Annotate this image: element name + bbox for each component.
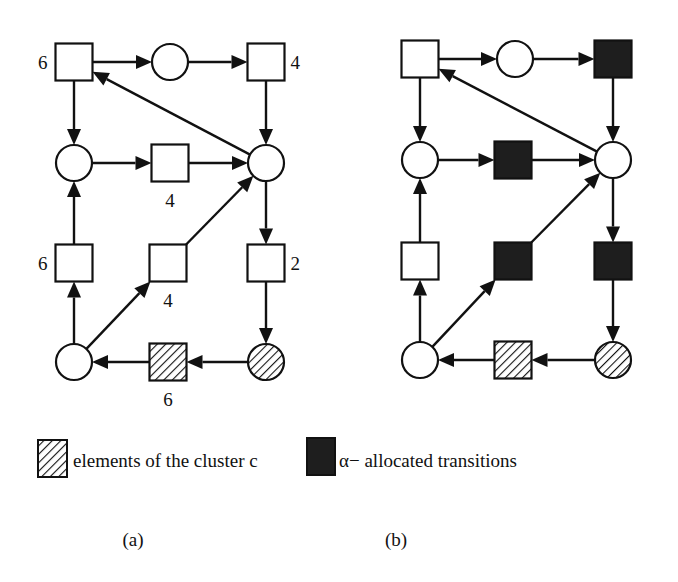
- transition-weight-label: 6: [38, 52, 48, 73]
- dark-transition-square: [595, 41, 632, 78]
- plain-transition-square: [248, 44, 285, 81]
- legend-cluster: elements of the cluster c: [38, 440, 258, 477]
- plain-transition-square: [56, 44, 93, 81]
- legend-cluster-label: elements of the cluster c: [73, 450, 258, 471]
- transition-weight-label: 4: [163, 290, 173, 311]
- arc-p_right-t_topleft: [93, 72, 251, 155]
- arrowhead-icon: [413, 280, 427, 296]
- dark-transition-square: [495, 142, 532, 179]
- arrowhead-icon: [606, 126, 620, 142]
- arrowhead-icon: [136, 55, 152, 69]
- arc-t_row3mid-p_right: [531, 173, 600, 243]
- plain-transition-square: [248, 245, 285, 282]
- hatched-place-circle: [248, 344, 284, 380]
- arc-t_mid-p_right: [532, 153, 596, 167]
- arrowhead-icon: [579, 153, 595, 167]
- arc-p_bottomleft-t_row3left: [67, 282, 81, 345]
- place-circle: [595, 142, 631, 178]
- arc-p_top-t_topright: [533, 52, 595, 66]
- arc-p_midleft-t_mid: [438, 153, 495, 167]
- arrowhead-icon: [232, 156, 248, 170]
- hatched-transition-square: [150, 344, 187, 381]
- place-circle: [152, 44, 188, 80]
- arc-p_top-t_topright: [188, 55, 248, 69]
- arrowhead-icon: [67, 282, 81, 298]
- arrowhead-icon: [259, 328, 273, 344]
- arc-p_bottomleft-t_row3mid: [432, 280, 495, 347]
- plain-transition-square: [402, 243, 439, 280]
- arrowhead-icon: [187, 355, 203, 369]
- arc-t_bottom-p_bottomleft: [438, 353, 495, 367]
- transition-weight-label: 4: [291, 52, 301, 73]
- legend-allocated-label: α− allocated transitions: [339, 450, 517, 471]
- arc-p_right-t_row3right: [606, 178, 620, 243]
- transition-weight-label: 6: [163, 389, 173, 410]
- arrowhead-icon: [259, 229, 273, 245]
- arrowhead-icon: [136, 156, 152, 170]
- arrowhead-icon: [579, 52, 595, 66]
- arc-t_row3right-p_bottomright: [259, 282, 273, 345]
- arc-p_bottomleft-t_row3mid: [86, 282, 150, 349]
- arc-t_topleft-p_top: [93, 55, 153, 69]
- hatched-square-icon: [38, 440, 67, 477]
- legend-allocated: α− allocated transitions: [307, 438, 517, 475]
- arrowhead-icon: [413, 126, 427, 142]
- arrowhead-icon: [481, 52, 497, 66]
- place-circle: [56, 145, 92, 181]
- dark-transition-square: [595, 243, 632, 280]
- arc-t_topleft-p_midleft: [67, 81, 81, 146]
- arrowhead-icon: [438, 353, 454, 367]
- arrowhead-icon: [532, 353, 548, 367]
- place-circle: [497, 41, 533, 77]
- arcs-layer: [67, 52, 620, 369]
- arc-p_midleft-t_mid: [92, 156, 152, 170]
- arrowhead-icon: [606, 326, 620, 342]
- dark-transition-square: [495, 243, 532, 280]
- arc-t_topleft-p_midleft: [413, 78, 427, 143]
- arc-t_bottom-p_bottomleft: [92, 355, 150, 369]
- arc-p_bottomleft-t_row3left: [413, 280, 427, 343]
- arc-p_bottomright-t_bottom: [187, 355, 249, 369]
- hatched-transition-square: [495, 342, 532, 379]
- arc-t_topright-p_right: [606, 78, 620, 143]
- arc-t_row3left-p_midleft: [413, 178, 427, 243]
- arc-t_mid-p_right: [189, 156, 249, 170]
- transition-weight-label: 6: [38, 253, 48, 274]
- arrowhead-icon: [259, 129, 273, 145]
- arc-p_bottomright-t_bottom: [532, 353, 596, 367]
- plain-transition-square: [56, 245, 93, 282]
- transition-weight-label: 4: [165, 190, 175, 211]
- caption-b: (b): [385, 529, 407, 551]
- arc-t_row3mid-p_right: [186, 176, 253, 245]
- place-circle: [402, 342, 438, 378]
- arc-t_topright-p_right: [259, 81, 273, 146]
- arc-p_right-t_row3right: [259, 181, 273, 245]
- arrowhead-icon: [606, 227, 620, 243]
- arc-t_row3right-p_bottomright: [606, 280, 620, 343]
- arrowhead-icon: [67, 129, 81, 145]
- place-circle: [56, 344, 92, 380]
- arrowhead-icon: [232, 55, 248, 69]
- arc-p_right-t_topleft: [439, 69, 598, 152]
- plain-transition-square: [402, 41, 439, 78]
- place-circle: [248, 145, 284, 181]
- arrowhead-icon: [413, 178, 427, 194]
- hatched-place-circle: [595, 342, 631, 378]
- caption-a: (a): [122, 529, 143, 551]
- transition-weight-label: 2: [291, 253, 301, 274]
- arrowhead-icon: [67, 181, 81, 197]
- arrowhead-icon: [479, 153, 495, 167]
- place-circle: [402, 142, 438, 178]
- plain-transition-square: [150, 245, 187, 282]
- arrowhead-icon: [92, 355, 108, 369]
- arc-t_row3left-p_midleft: [67, 181, 81, 245]
- arc-t_topleft-p_top: [439, 52, 498, 66]
- nodes-layer: [56, 41, 632, 381]
- plain-transition-square: [152, 145, 189, 182]
- petri-net-figure: 6446426 elements of the cluster c α− all…: [0, 0, 678, 582]
- dark-square-icon: [307, 438, 335, 475]
